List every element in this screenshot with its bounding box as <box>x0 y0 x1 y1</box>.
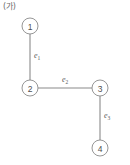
node-4-label: 4 <box>98 144 103 154</box>
node-3-label: 3 <box>98 84 103 94</box>
graph-figure: (가) e1 e2 e3 1 2 3 4 <box>0 0 130 165</box>
edge-label-e3-subscript: 3 <box>108 115 111 121</box>
edge-label-e2: e2 <box>62 75 69 85</box>
edge-label-e1: e1 <box>34 51 41 61</box>
node-1-label: 1 <box>28 22 33 32</box>
node-4: 4 <box>92 140 108 156</box>
edge-label-e3: e3 <box>104 111 111 121</box>
edge-label-e1-subscript: 1 <box>38 55 41 61</box>
node-3: 3 <box>92 80 108 96</box>
node-2: 2 <box>22 80 38 96</box>
edge-label-e2-subscript: 2 <box>66 79 69 85</box>
node-2-label: 2 <box>28 84 33 94</box>
node-1: 1 <box>22 18 38 34</box>
graph-canvas: e1 e2 e3 1 2 3 4 <box>0 0 130 165</box>
